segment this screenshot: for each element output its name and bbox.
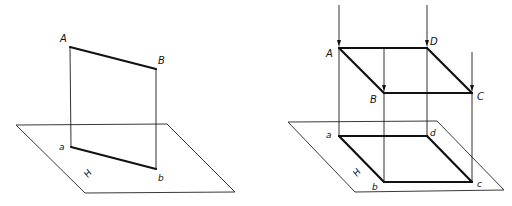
segment-AB <box>339 48 384 93</box>
figure-parallelogram-projection: ADBCadbcH <box>288 5 504 192</box>
point-label-A: A <box>59 33 67 44</box>
plane-h-outline <box>16 124 235 193</box>
projection-label-d: d <box>430 128 436 138</box>
point-label-B: B <box>370 94 377 105</box>
projector-line-Aa <box>70 47 71 147</box>
segment-dc <box>427 136 472 182</box>
point-label-B: B <box>158 55 165 66</box>
segment-ab <box>339 136 384 182</box>
point-label-C: C <box>477 91 484 102</box>
diagram-canvas: ABabH ADBCadbcH <box>0 0 512 206</box>
projection-label-b: b <box>158 173 164 183</box>
segment-AB <box>70 47 156 69</box>
projection-direction-arrow-icon <box>337 5 341 47</box>
projection-label-a: a <box>326 130 332 140</box>
projection-label-c: c <box>477 179 482 189</box>
plane-label-h: H <box>351 166 363 178</box>
projection-label-b: b <box>372 182 378 192</box>
point-label-D: D <box>430 36 438 47</box>
segment-ab <box>71 147 156 169</box>
figure-line-projection: ABabH <box>16 33 235 193</box>
segment-DC <box>427 48 472 93</box>
projection-diagram: ABabH ADBCadbcH <box>0 0 512 206</box>
projection-direction-arrow-icon <box>382 48 386 92</box>
projection-direction-arrow-icon <box>470 52 474 92</box>
point-label-A: A <box>325 48 333 59</box>
plane-label-h: H <box>82 167 94 179</box>
projection-direction-arrow-icon <box>425 5 429 47</box>
projection-label-a: a <box>59 142 65 152</box>
